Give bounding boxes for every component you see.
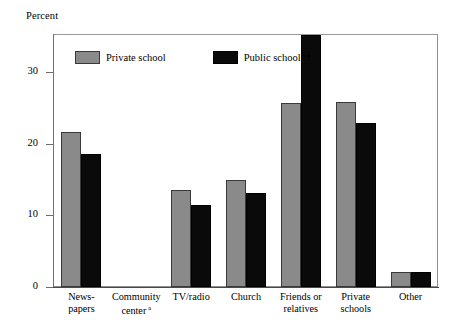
plot-area bbox=[54, 35, 438, 287]
y-axis-tick-label: 20 bbox=[8, 137, 38, 148]
x-axis-category-label: Friends or relatives bbox=[273, 291, 328, 314]
y-axis-tick bbox=[46, 287, 53, 288]
bar-public-school bbox=[411, 272, 431, 287]
y-axis-title: Percent bbox=[26, 10, 58, 21]
bar-private-school bbox=[336, 102, 356, 287]
y-axis-tick bbox=[46, 72, 53, 73]
bar-public-school bbox=[191, 205, 211, 287]
x-axis-line bbox=[53, 287, 439, 288]
bar-private-school bbox=[281, 103, 301, 287]
bar-private-school bbox=[391, 272, 411, 287]
y-axis-tick-label: 30 bbox=[8, 65, 38, 76]
bar-public-school bbox=[81, 154, 101, 287]
bar-public-school bbox=[356, 123, 376, 287]
public-school-swatch-icon bbox=[213, 51, 238, 64]
legend-item-public: Public school** bbox=[213, 51, 311, 64]
x-axis-category-label: Communitycenter a bbox=[109, 291, 164, 316]
bar-private-school bbox=[171, 190, 191, 287]
bar-public-school bbox=[246, 193, 266, 287]
bar-private-school bbox=[61, 132, 81, 287]
y-axis-tick bbox=[46, 144, 53, 145]
legend-label-private: Private school bbox=[106, 52, 166, 63]
private-school-swatch-icon bbox=[75, 51, 100, 64]
x-axis-category-label: News- papers bbox=[54, 291, 109, 314]
x-axis-category-label: Church bbox=[219, 291, 274, 303]
bar-private-school bbox=[226, 180, 246, 287]
legend-label-public: Public school** bbox=[244, 52, 311, 63]
bar-public-school bbox=[301, 35, 321, 287]
bar-chart: Percent 0102030 News- papersCommunitycen… bbox=[0, 0, 459, 331]
y-axis-tick-label: 10 bbox=[8, 208, 38, 219]
legend-item-private: Private school bbox=[75, 51, 166, 64]
x-axis-category-label: TV/radio bbox=[164, 291, 219, 303]
x-axis-category-label: Private schools bbox=[328, 291, 383, 314]
y-axis-tick-label: 0 bbox=[8, 280, 38, 291]
y-axis-tick bbox=[46, 215, 53, 216]
x-axis-category-label: Other bbox=[383, 291, 438, 303]
chart-legend: Private school Public school** bbox=[75, 51, 311, 64]
